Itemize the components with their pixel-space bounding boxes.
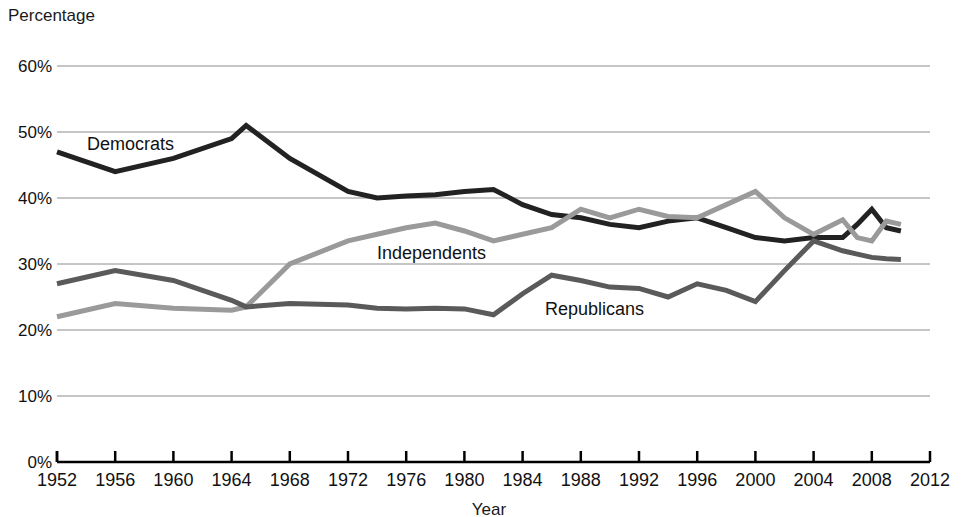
plot-area bbox=[0, 0, 978, 517]
x-axis-tick-marks bbox=[57, 451, 930, 462]
series-label-republicans: Republicans bbox=[543, 299, 646, 319]
gridlines bbox=[57, 66, 930, 396]
line-chart: Percentage Year 0%10%20%30%40%50%60% 195… bbox=[0, 0, 978, 517]
series-lines bbox=[57, 125, 901, 316]
series-line-democrats bbox=[57, 125, 901, 240]
series-label-independents: Independents bbox=[375, 243, 488, 263]
series-label-democrats: Democrats bbox=[85, 134, 176, 154]
axis-lines bbox=[57, 451, 930, 462]
